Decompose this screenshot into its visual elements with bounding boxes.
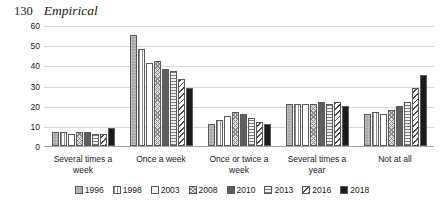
legend-swatch-2008 bbox=[189, 186, 197, 194]
bar-2003-0 bbox=[68, 134, 75, 146]
legend-swatch-1998 bbox=[113, 186, 121, 194]
bar-1998-0 bbox=[60, 132, 67, 146]
bar-group bbox=[278, 26, 356, 146]
legend-item-2003[interactable]: 2003 bbox=[151, 186, 180, 195]
bar-1998-3 bbox=[294, 104, 301, 146]
x-axis-label-0: Several times a week bbox=[44, 154, 122, 176]
bar-2016-4 bbox=[412, 88, 419, 146]
bar-2016-0 bbox=[100, 134, 107, 146]
bar-2008-4 bbox=[388, 110, 395, 146]
bar-2013-1 bbox=[170, 71, 177, 146]
legend-item-2016[interactable]: 2016 bbox=[302, 186, 331, 195]
y-axis: 0102030405060 bbox=[18, 26, 40, 147]
page: 130 Empirical 0102030405060 Several time… bbox=[0, 0, 444, 204]
bar-2013-0 bbox=[92, 134, 99, 146]
bar-2010-4 bbox=[396, 106, 403, 146]
bar-1996-1 bbox=[130, 35, 137, 146]
bar-2008-0 bbox=[76, 132, 83, 146]
bar-2010-1 bbox=[162, 69, 169, 146]
x-axis-line bbox=[44, 146, 434, 147]
bar-2013-3 bbox=[326, 104, 333, 146]
legend-label-1998: 1998 bbox=[123, 186, 142, 195]
bar-2003-2 bbox=[224, 116, 231, 146]
bar-group bbox=[44, 26, 122, 146]
legend-label-2013: 2013 bbox=[274, 186, 293, 195]
bar-2003-3 bbox=[302, 104, 309, 146]
bar-2016-2 bbox=[256, 122, 263, 146]
legend-label-2018: 2018 bbox=[350, 186, 369, 195]
legend-swatch-2003 bbox=[151, 186, 159, 194]
bar-2018-3 bbox=[342, 106, 349, 146]
y-axis-tick-20: 20 bbox=[31, 102, 40, 111]
legend-item-2013[interactable]: 2013 bbox=[264, 186, 293, 195]
bar-1996-2 bbox=[208, 124, 215, 146]
legend: 19961998200320082010201320162018 bbox=[0, 186, 444, 195]
legend-label-2003: 2003 bbox=[161, 186, 180, 195]
bar-1998-4 bbox=[372, 112, 379, 146]
x-axis-label-4: Not at all bbox=[356, 154, 434, 176]
y-axis-tick-40: 40 bbox=[31, 62, 40, 71]
running-head-title: Empirical bbox=[44, 3, 98, 19]
bar-2010-3 bbox=[318, 102, 325, 146]
legend-item-1998[interactable]: 1998 bbox=[113, 186, 142, 195]
bar-2016-3 bbox=[334, 102, 341, 146]
bar-2018-1 bbox=[186, 88, 193, 146]
legend-label-2008: 2008 bbox=[199, 186, 218, 195]
legend-swatch-1996 bbox=[75, 186, 83, 194]
x-axis-label-2: Once or twice a week bbox=[200, 154, 278, 176]
bar-2018-0 bbox=[108, 128, 115, 146]
x-axis-label-1: Once a week bbox=[122, 154, 200, 176]
bar-chart: 0102030405060 Several times a weekOnce a… bbox=[0, 26, 444, 204]
y-axis-tick-0: 0 bbox=[35, 143, 40, 152]
bar-2018-2 bbox=[264, 124, 271, 146]
bar-1996-0 bbox=[52, 132, 59, 146]
x-axis-labels: Several times a weekOnce a weekOnce or t… bbox=[44, 154, 434, 176]
legend-item-2010[interactable]: 2010 bbox=[227, 186, 256, 195]
legend-swatch-2010 bbox=[227, 186, 235, 194]
legend-label-2010: 2010 bbox=[237, 186, 256, 195]
bar-2003-1 bbox=[146, 63, 153, 146]
legend-item-1996[interactable]: 1996 bbox=[75, 186, 104, 195]
bar-1998-1 bbox=[138, 49, 145, 146]
bar-group bbox=[200, 26, 278, 146]
y-axis-tick-60: 60 bbox=[31, 22, 40, 31]
x-axis-label-3: Several times a year bbox=[278, 154, 356, 176]
running-head: 130 Empirical bbox=[14, 3, 98, 19]
legend-item-2008[interactable]: 2008 bbox=[189, 186, 218, 195]
y-axis-tick-30: 30 bbox=[31, 82, 40, 91]
bar-2013-2 bbox=[248, 118, 255, 146]
bar-2008-1 bbox=[154, 61, 161, 146]
bar-2010-2 bbox=[240, 114, 247, 146]
legend-swatch-2016 bbox=[302, 186, 310, 194]
legend-label-2016: 2016 bbox=[312, 186, 331, 195]
bar-groups bbox=[44, 26, 434, 146]
bar-1996-4 bbox=[364, 114, 371, 146]
page-number: 130 bbox=[14, 4, 33, 19]
bar-group bbox=[122, 26, 200, 146]
bar-2010-0 bbox=[84, 132, 91, 146]
legend-label-1996: 1996 bbox=[85, 186, 104, 195]
bar-2016-1 bbox=[178, 79, 185, 146]
legend-item-2018[interactable]: 2018 bbox=[340, 186, 369, 195]
plot-area-wrapper: 0102030405060 bbox=[0, 26, 444, 152]
bar-2003-4 bbox=[380, 114, 387, 146]
bar-group bbox=[356, 26, 434, 146]
y-axis-tick-10: 10 bbox=[31, 123, 40, 132]
bar-1998-2 bbox=[216, 120, 223, 146]
bar-1996-3 bbox=[286, 104, 293, 146]
legend-swatch-2013 bbox=[264, 186, 272, 194]
y-axis-tick-50: 50 bbox=[31, 42, 40, 51]
bar-2018-4 bbox=[420, 75, 427, 146]
plot-area bbox=[44, 26, 434, 147]
bar-2008-3 bbox=[310, 104, 317, 146]
legend-swatch-2018 bbox=[340, 186, 348, 194]
bar-2008-2 bbox=[232, 112, 239, 146]
bar-2013-4 bbox=[404, 102, 411, 146]
